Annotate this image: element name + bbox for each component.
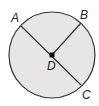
- center-point: [50, 53, 55, 58]
- label-c: C: [82, 88, 91, 102]
- label-a: A: [10, 11, 19, 25]
- label-d: D: [47, 59, 56, 73]
- circle-diagram: A B C D: [0, 0, 99, 106]
- label-b: B: [80, 8, 88, 22]
